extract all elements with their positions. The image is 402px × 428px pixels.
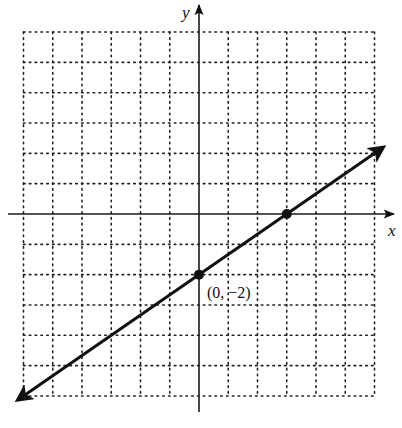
- coordinate-plane: y x (0, −2): [0, 0, 402, 428]
- point-x-intercept: [282, 209, 292, 219]
- y-axis-label: y: [180, 3, 190, 22]
- x-axis-label: x: [387, 221, 396, 240]
- point-y-intercept: [194, 270, 204, 280]
- point-label-y-intercept: (0, −2): [207, 284, 251, 302]
